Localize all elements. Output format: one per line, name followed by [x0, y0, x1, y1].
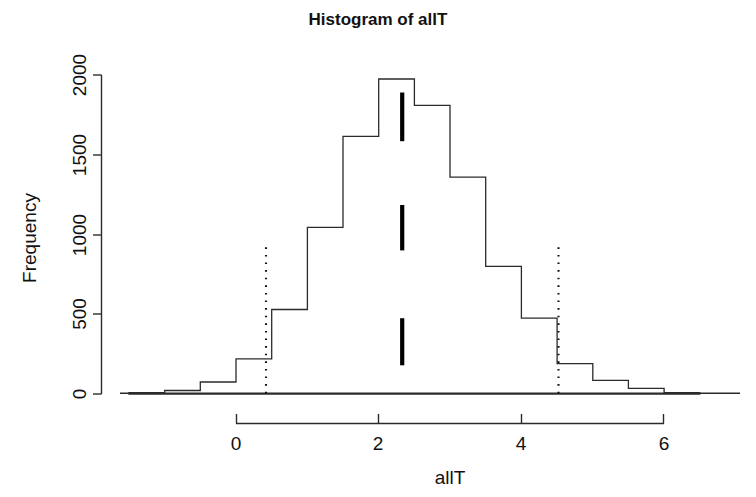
histogram-plot-root: Histogram of allT 2000 1500 1000 500 0 F… [0, 0, 756, 497]
page-title: Histogram of allT [309, 10, 448, 29]
y-tick-label-2000: 2000 [69, 54, 90, 96]
y-tick-label-1500: 1500 [69, 134, 90, 176]
x-tick-label-2: 2 [373, 433, 384, 454]
histogram-bars [120, 79, 740, 394]
y-axis-title: Frequency [19, 193, 40, 283]
x-axis-title: allT [435, 467, 466, 488]
x-tick-label-6: 6 [659, 433, 670, 454]
x-tick-label-0: 0 [231, 433, 242, 454]
y-tick-label-1000: 1000 [69, 214, 90, 256]
y-axis: 2000 1500 1000 500 0 Frequency [19, 54, 102, 399]
y-tick-label-0: 0 [69, 389, 90, 400]
histogram-outline [129, 79, 700, 394]
x-axis: 0 2 4 6 allT [231, 414, 670, 488]
y-tick-label-500: 500 [69, 298, 90, 330]
histogram-svg: Histogram of allT 2000 1500 1000 500 0 F… [0, 0, 756, 497]
x-tick-label-4: 4 [516, 433, 527, 454]
